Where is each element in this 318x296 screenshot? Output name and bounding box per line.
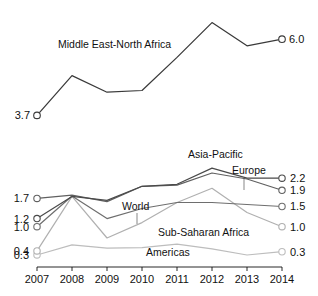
top-series-group [34,23,286,119]
series-label-sub-saharan-africa: Sub-Saharan Africa [158,226,249,238]
series-start-marker-middle-east-north-africa [34,112,41,119]
end-value-label: 1.5 [290,200,305,212]
series-label-middle-east-north-africa: Middle East-North Africa [58,38,171,50]
series-start-marker-world [34,223,40,229]
end-value-labels: 2.21.91.51.00.3 [290,172,305,258]
bottom-series-group [34,168,285,258]
top-chart-panel: 3.7 6.0 Middle East-North Africa [0,0,318,148]
end-value-label: 1.9 [290,184,305,196]
x-axis-tick-label: 2012 [200,273,224,285]
start-value-labels: 1.71.21.00.40.3 [14,192,29,261]
x-axis-tick-labels: 20072008200920102011201220132014 [25,273,294,285]
x-axis-tick-label: 2010 [130,273,154,285]
bottom-chart-panel: 20072008200920102011201220132014 1.71.21… [0,148,318,296]
series-label-world: World [122,200,149,212]
x-axis-tick-label: 2009 [95,273,119,285]
top-start-value-label: 3.7 [15,109,30,121]
start-value-label: 1.0 [14,221,29,233]
x-axis-tick-label: 2008 [60,273,84,285]
x-axis-ticks [37,267,282,271]
x-axis-tick-label: 2014 [270,273,294,285]
series-label-americas: Americas [146,246,190,258]
end-value-label: 0.3 [290,246,305,258]
start-value-label: 1.7 [14,192,29,204]
series-end-marker-world [279,203,285,209]
series-label-asia-pacific: Asia-Pacific [188,148,243,160]
series-start-marker-europe [34,195,40,201]
end-value-label: 1.0 [290,221,305,233]
bottom-chart-svg: 20072008200920102011201220132014 1.71.21… [0,148,318,296]
x-axis-tick-label: 2007 [25,273,49,285]
series-end-marker-sub-saharan-africa [279,223,285,229]
chart-figure: 3.7 6.0 Middle East-North Africa 2007200… [0,0,318,296]
top-chart-svg: 3.7 6.0 Middle East-North Africa [0,0,318,148]
x-axis-tick-label: 2013 [235,273,259,285]
series-end-marker-americas [279,249,285,255]
series-start-marker-sub-saharan-africa [34,248,40,254]
end-value-label: 2.2 [290,172,305,184]
series-start-marker-asia-pacific [34,215,40,221]
top-end-value-label: 6.0 [289,33,304,45]
x-axis: 20072008200920102011201220132014 [25,267,294,285]
series-end-marker-middle-east-north-africa [279,36,286,43]
series-end-marker-asia-pacific [279,175,285,181]
start-value-label: 0.3 [14,249,29,261]
series-line-middle-east-north-africa [37,23,282,116]
x-axis-tick-label: 2011 [165,273,189,285]
series-label-europe: Europe [232,164,266,176]
series-end-marker-europe [279,187,285,193]
